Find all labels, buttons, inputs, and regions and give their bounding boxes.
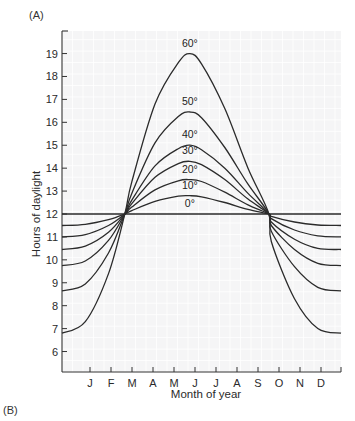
y-tick-label: 6 — [52, 346, 58, 358]
y-axis-title: Hours of daylight — [30, 170, 42, 257]
y-tick-label: 12 — [46, 208, 58, 220]
y-tick-label: 14 — [46, 162, 58, 174]
curve-label: 0° — [185, 197, 195, 209]
y-tick-label: 17 — [46, 93, 58, 105]
x-axis-title: Month of year — [171, 388, 241, 400]
x-tick-label: A — [149, 377, 157, 389]
daylight-chart: 678910111213141516171819 JFMAMJJASOND 60… — [0, 0, 355, 421]
x-tick-label: F — [108, 377, 115, 389]
y-tick-label: 19 — [46, 48, 58, 60]
y-tick-label: 13 — [46, 185, 58, 197]
y-tick-label: 7 — [52, 323, 58, 335]
y-tick-label: 10 — [46, 254, 58, 266]
plot-grid — [62, 31, 341, 372]
y-tick-label: 9 — [52, 277, 58, 289]
y-tick-label: 18 — [46, 70, 58, 82]
x-tick-label: D — [317, 377, 325, 389]
x-tick-label: J — [87, 377, 93, 389]
curve-label: 60° — [182, 37, 198, 49]
y-tick-label: 8 — [52, 300, 58, 312]
curve-label: 40° — [182, 128, 198, 140]
y-tick-label: 15 — [46, 139, 58, 151]
curve-label: 50° — [182, 95, 198, 107]
x-tick-label: M — [127, 377, 136, 389]
y-tick-label: 16 — [46, 116, 58, 128]
x-tick-label: N — [296, 377, 304, 389]
x-tick-label: S — [254, 377, 261, 389]
curve-label: 20° — [182, 163, 198, 175]
x-tick-label: O — [275, 377, 284, 389]
y-tick-label: 11 — [47, 231, 58, 243]
curve-label: 10° — [182, 179, 198, 191]
curve-label: 30° — [182, 144, 198, 156]
